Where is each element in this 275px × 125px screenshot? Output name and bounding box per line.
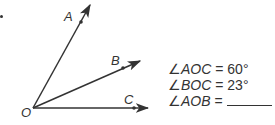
equation-aob: ∠AOB =: [168, 93, 272, 109]
angle-value: 23°: [227, 77, 248, 93]
equals-sign: =: [211, 77, 227, 93]
point-a: [79, 20, 83, 24]
angle-name: BOC: [181, 77, 211, 93]
angle-equations: ∠AOC = 60° ∠BOC = 23° ∠AOB =: [168, 61, 272, 109]
label-a: A: [64, 10, 73, 23]
point-b: [121, 66, 125, 70]
angle-name: AOB: [181, 93, 211, 109]
equation-boc: ∠BOC = 23°: [168, 77, 272, 93]
answer-blank[interactable]: [227, 93, 272, 106]
equals-sign: =: [211, 93, 227, 109]
equals-sign: =: [211, 61, 227, 77]
label-c: C: [124, 93, 133, 106]
label-o: O: [21, 106, 31, 119]
angle-name: AOC: [181, 61, 211, 77]
angle-symbol: ∠: [168, 77, 181, 93]
label-b: B: [111, 54, 120, 67]
equation-aoc: ∠AOC = 60°: [168, 61, 272, 77]
angle-symbol: ∠: [168, 61, 181, 77]
angle-value: 60°: [227, 61, 248, 77]
angle-symbol: ∠: [168, 93, 181, 109]
